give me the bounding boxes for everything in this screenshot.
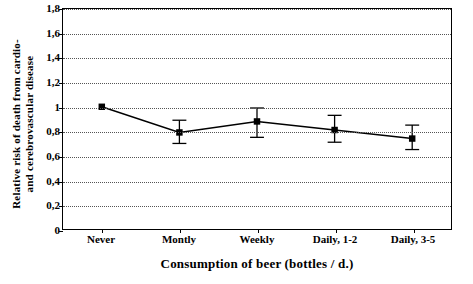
gridline <box>63 132 451 133</box>
y-tick-mark <box>59 108 63 109</box>
data-point-marker <box>254 118 260 124</box>
y-tick-mark <box>59 58 63 59</box>
y-tick-label: 1,8 <box>46 2 60 14</box>
chart-figure: Relative risk of death from cardio- and … <box>0 0 473 284</box>
gridline <box>63 206 451 207</box>
y-tick-mark <box>59 231 63 232</box>
gridline <box>63 182 451 183</box>
x-axis-tick-labels: NeverMontlyWeeklyDaily, 1-2Daily, 3-5 <box>62 233 452 249</box>
y-tick-mark <box>59 34 63 35</box>
gridline <box>63 157 451 158</box>
y-axis-title-line1: Relative risk of death from cardio- <box>10 4 23 244</box>
y-tick-mark <box>59 9 63 10</box>
y-tick-mark <box>59 83 63 84</box>
data-series-beer-risk <box>63 9 451 229</box>
gridline <box>63 108 451 109</box>
y-tick-label: 1 <box>55 101 61 113</box>
x-tick-label: Daily, 1-2 <box>313 233 358 245</box>
y-tick-label: 1,2 <box>46 76 60 88</box>
data-point-marker <box>409 135 415 141</box>
gridline <box>63 83 451 84</box>
y-tick-label: 0,6 <box>46 150 60 162</box>
x-tick-label: Weekly <box>240 233 275 245</box>
gridline <box>63 9 451 10</box>
x-tick-label: Daily, 3-5 <box>391 233 436 245</box>
y-axis-tick-labels: 00,20,40,60,811,21,41,61,8 <box>34 8 60 230</box>
y-tick-label: 1,6 <box>46 27 60 39</box>
y-tick-mark <box>59 132 63 133</box>
x-tick-label: Montly <box>162 233 196 245</box>
y-tick-label: 0,8 <box>46 125 60 137</box>
gridline <box>63 58 451 59</box>
y-tick-mark <box>59 157 63 158</box>
gridline <box>63 34 451 35</box>
y-tick-label: 0,4 <box>46 175 60 187</box>
y-tick-label: 1,4 <box>46 51 60 63</box>
x-axis-title: Consumption of beer (bottles / d.) <box>62 256 452 272</box>
plot-area <box>62 8 452 230</box>
y-tick-mark <box>59 182 63 183</box>
y-tick-mark <box>59 206 63 207</box>
y-tick-label: 0 <box>55 224 61 236</box>
y-tick-label: 0,2 <box>46 199 60 211</box>
x-tick-label: Never <box>87 233 115 245</box>
